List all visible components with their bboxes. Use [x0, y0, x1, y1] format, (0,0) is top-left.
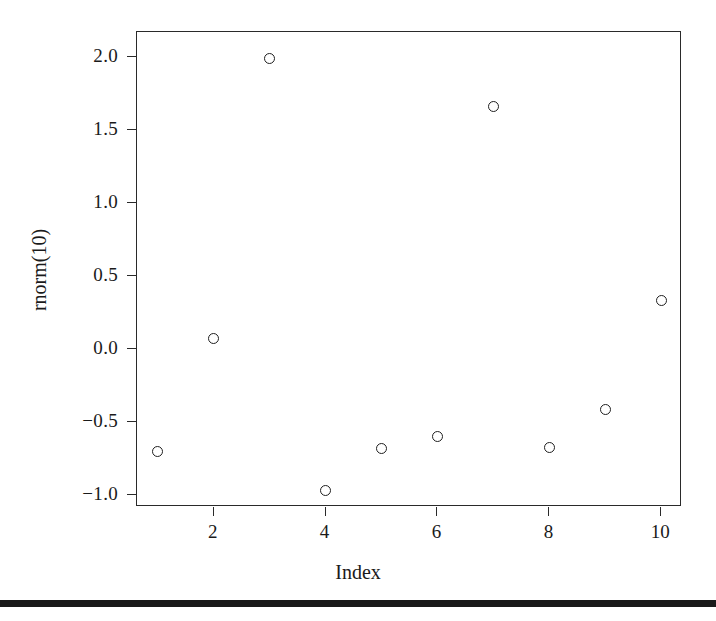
- data-point: [152, 446, 163, 457]
- y-axis-tick-label: 1.5: [50, 119, 118, 138]
- y-axis-tick-label: 2.0: [50, 46, 118, 65]
- y-axis-tick: [127, 348, 136, 349]
- y-axis-tick-label: 1.0: [50, 192, 118, 211]
- data-point: [544, 442, 555, 453]
- y-axis-tick-label-container: 1.5: [46, 119, 118, 138]
- data-point: [432, 431, 443, 442]
- x-axis-tick: [548, 507, 549, 516]
- data-point: [208, 333, 219, 344]
- x-axis-tick-label: 4: [295, 522, 355, 542]
- y-axis-tick: [127, 202, 136, 203]
- y-axis-tick: [127, 56, 136, 57]
- x-axis-tick-label: 2: [183, 522, 243, 542]
- plot-area: [136, 31, 681, 506]
- x-axis-title: Index: [0, 560, 716, 584]
- y-axis-tick-label: −1.0: [50, 484, 118, 503]
- x-axis-tick: [436, 507, 437, 516]
- y-axis-tick-label-container: −1.0: [46, 484, 118, 503]
- x-axis-tick-label: 10: [630, 522, 690, 542]
- y-axis-tick-label-container: 0.0: [46, 338, 118, 357]
- y-axis-tick-label-container: 0.5: [46, 265, 118, 284]
- y-axis-tick-label-container: 1.0: [46, 192, 118, 211]
- data-point: [320, 485, 331, 496]
- x-axis-tick: [213, 507, 214, 516]
- x-axis-tick-label: 6: [406, 522, 466, 542]
- data-point: [376, 443, 387, 454]
- y-axis-tick: [127, 421, 136, 422]
- data-point: [488, 101, 499, 112]
- y-axis-tick-label-container: 2.0: [46, 46, 118, 65]
- x-axis-tick: [660, 507, 661, 516]
- figure-canvas: rnorm(10) 2.01.51.00.50.0−0.5−1.0 246810…: [0, 0, 716, 621]
- y-axis-tick-label-container: −0.5: [46, 411, 118, 430]
- x-axis-tick-label: 8: [518, 522, 578, 542]
- y-axis-tick: [127, 275, 136, 276]
- x-axis-tick: [325, 507, 326, 516]
- data-point: [656, 295, 667, 306]
- y-axis-tick-label: −0.5: [50, 411, 118, 430]
- y-axis-tick: [127, 129, 136, 130]
- y-axis-tick-label: 0.0: [50, 338, 118, 357]
- y-axis-tick: [127, 494, 136, 495]
- data-point: [264, 53, 275, 64]
- bottom-rule: [0, 600, 716, 607]
- data-point: [600, 404, 611, 415]
- y-axis-tick-label: 0.5: [50, 265, 118, 284]
